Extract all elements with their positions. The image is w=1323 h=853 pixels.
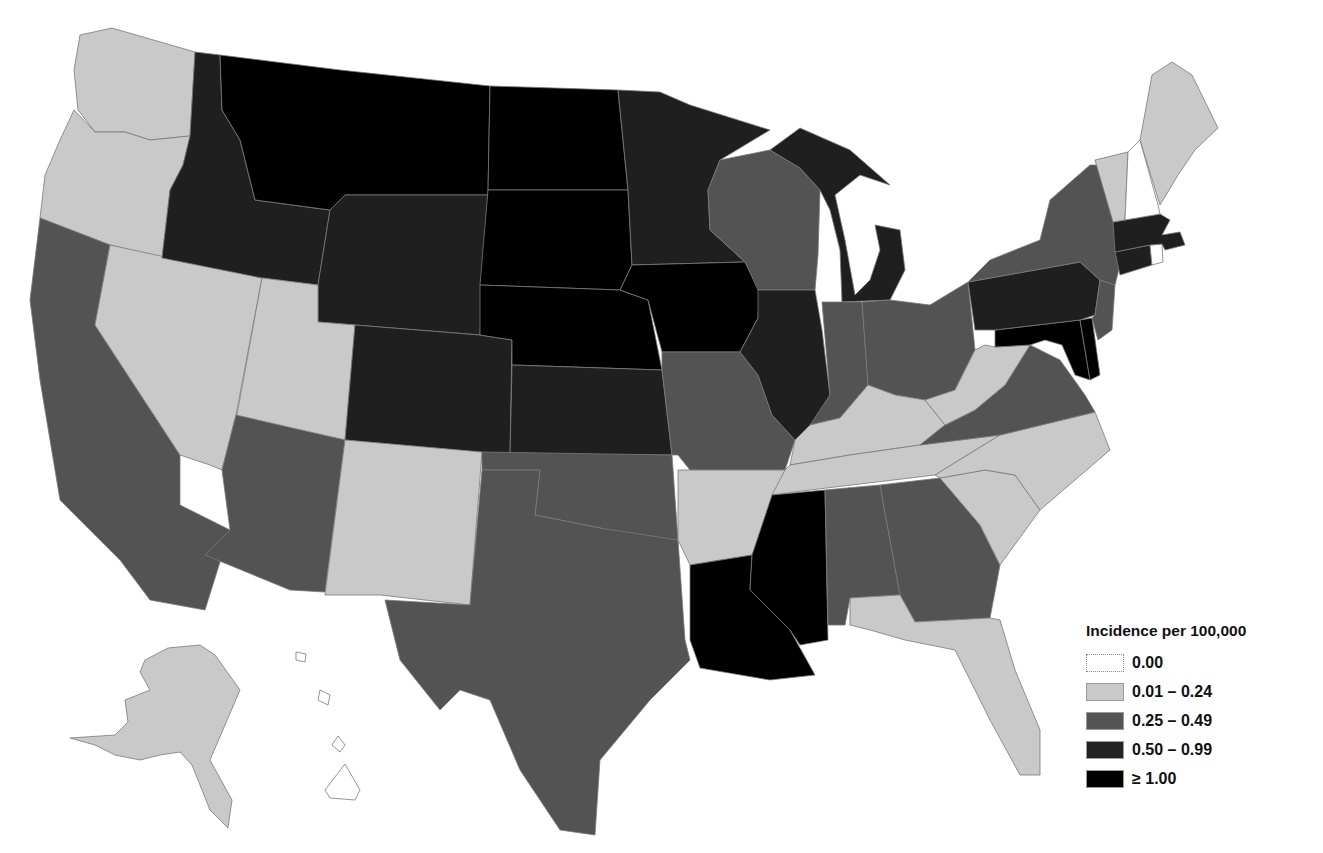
state-montana[interactable] xyxy=(220,55,490,210)
state-hawaii-oahu[interactable] xyxy=(318,690,330,705)
state-wyoming[interactable] xyxy=(318,195,488,335)
legend-label: ≥ 1.00 xyxy=(1132,770,1176,788)
state-hawaii-kauai[interactable] xyxy=(296,652,306,662)
state-hawaii-maui[interactable] xyxy=(332,736,345,752)
state-hawaii-big-island[interactable] xyxy=(325,764,360,800)
state-hawaii-group[interactable] xyxy=(296,652,360,800)
legend-title: Incidence per 100,000 xyxy=(1086,622,1316,640)
state-washington[interactable] xyxy=(74,28,195,140)
legend-swatch-black xyxy=(1086,770,1124,788)
legend-label: 0.01 – 0.24 xyxy=(1132,683,1212,701)
legend: Incidence per 100,000 0.00 0.01 – 0.24 0… xyxy=(1086,622,1316,793)
legend-label: 0.50 – 0.99 xyxy=(1132,741,1212,759)
legend-item-1: 0.01 – 0.24 xyxy=(1086,677,1316,706)
legend-swatch-light-gray xyxy=(1086,683,1124,701)
state-kansas[interactable] xyxy=(510,365,672,455)
legend-swatch-medium-gray xyxy=(1086,712,1124,730)
legend-swatch-dark-gray xyxy=(1086,741,1124,759)
state-north-dakota[interactable] xyxy=(488,86,628,190)
legend-item-0: 0.00 xyxy=(1086,648,1316,677)
state-rhode-island[interactable] xyxy=(1150,244,1163,265)
state-south-dakota[interactable] xyxy=(480,190,632,290)
legend-label: 0.25 – 0.49 xyxy=(1132,712,1212,730)
legend-label: 0.00 xyxy=(1132,654,1163,672)
state-alaska[interactable] xyxy=(70,645,240,828)
state-florida[interactable] xyxy=(850,595,1040,775)
legend-item-4: ≥ 1.00 xyxy=(1086,764,1316,793)
state-new-mexico[interactable] xyxy=(325,440,482,605)
state-new-york[interactable] xyxy=(968,165,1120,285)
legend-item-2: 0.25 – 0.49 xyxy=(1086,706,1316,735)
state-colorado[interactable] xyxy=(345,325,512,455)
legend-item-3: 0.50 – 0.99 xyxy=(1086,735,1316,764)
legend-swatch-white xyxy=(1086,654,1124,672)
